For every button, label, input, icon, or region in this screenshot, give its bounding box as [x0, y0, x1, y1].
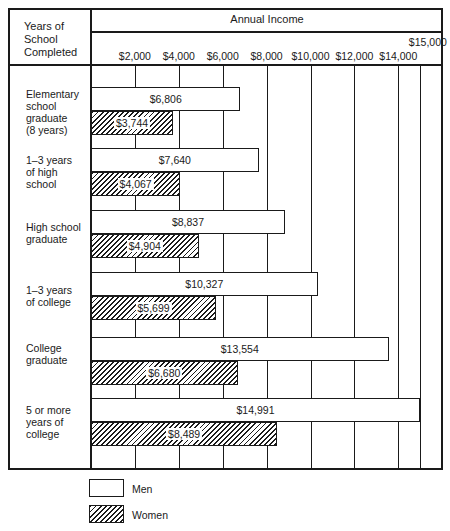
bar-men: $10,327: [91, 272, 318, 296]
bar-women: $8,489: [91, 422, 277, 446]
bar-men: $13,554: [91, 337, 389, 361]
bar-women: $5,699: [91, 296, 216, 320]
x-tick-label: $10,000: [292, 50, 330, 62]
legend-label-men: Men: [132, 483, 152, 495]
category-label-line: College: [26, 342, 67, 354]
bar-men: $14,991: [91, 398, 420, 422]
bar-value-label: $3,744: [114, 117, 150, 129]
category-label: Collegegraduate: [26, 342, 67, 366]
bar-value-label: $6,680: [146, 367, 182, 379]
category-label: Elementaryschoolgraduate(8 years): [26, 88, 79, 136]
gridline: [420, 65, 421, 469]
legend-swatch-women: [89, 505, 124, 523]
bar-value-label: $13,554: [221, 343, 259, 355]
category-label-line: graduate: [26, 354, 67, 366]
category-label-line: Elementary: [26, 88, 79, 100]
title-divider: [91, 31, 443, 33]
category-label: 1–3 yearsof highschool: [26, 154, 72, 190]
category-label-line: graduate: [26, 112, 79, 124]
legend-swatch-men: [89, 479, 124, 497]
bar-women: $4,904: [91, 234, 199, 258]
legend-label-women: Women: [132, 509, 168, 521]
header-divider: [8, 64, 443, 66]
x-tick-label: $4,000: [163, 50, 195, 62]
category-label-line: years of: [26, 416, 71, 428]
category-label-line: of high: [26, 166, 72, 178]
category-label: 1–3 yearsof college: [26, 284, 72, 308]
bar-value-label: $14,991: [237, 404, 275, 416]
bar-value-label: $6,806: [150, 93, 182, 105]
category-label-line: 1–3 years: [26, 284, 72, 296]
category-label-line: (8 years): [26, 124, 79, 136]
category-label: 5 or moreyears ofcollege: [26, 404, 71, 440]
bar-value-label: $4,904: [127, 240, 163, 252]
chart-title: Annual Income: [91, 13, 443, 25]
bar-value-label: $7,640: [159, 154, 191, 166]
x-tick-label: $6,000: [207, 50, 239, 62]
x-tick-label: $14,000: [379, 50, 417, 62]
bar-value-label: $4,067: [118, 178, 154, 190]
x-tick-label: $15,000: [409, 36, 447, 48]
category-label-line: school: [26, 100, 79, 112]
row-header-line: School: [24, 33, 77, 46]
row-header-line: Years of: [24, 20, 77, 33]
category-label-line: graduate: [26, 233, 81, 245]
bar-value-label: $8,489: [166, 428, 202, 440]
category-label-line: college: [26, 428, 71, 440]
bar-value-label: $5,699: [135, 302, 171, 314]
bar-men: $8,837: [91, 210, 285, 234]
row-header-label: Years of School Completed: [24, 20, 77, 59]
x-tick-label: $2,000: [119, 50, 151, 62]
bar-men: $6,806: [91, 87, 240, 111]
bar-women: $3,744: [91, 111, 173, 135]
x-tick-label: $8,000: [251, 50, 283, 62]
x-tick-label: $12,000: [335, 50, 373, 62]
category-label-line: 1–3 years: [26, 154, 72, 166]
bar-value-label: $10,327: [185, 278, 223, 290]
category-label-line: school: [26, 178, 72, 190]
bar-men: $7,640: [91, 148, 259, 172]
category-label-line: 5 or more: [26, 404, 71, 416]
bar-women: $4,067: [91, 172, 180, 196]
category-label: High schoolgraduate: [26, 221, 81, 245]
row-header-line: Completed: [24, 46, 77, 59]
category-label-line: High school: [26, 221, 81, 233]
bar-value-label: $8,837: [172, 216, 204, 228]
category-label-line: of college: [26, 296, 72, 308]
bar-women: $6,680: [91, 361, 238, 385]
